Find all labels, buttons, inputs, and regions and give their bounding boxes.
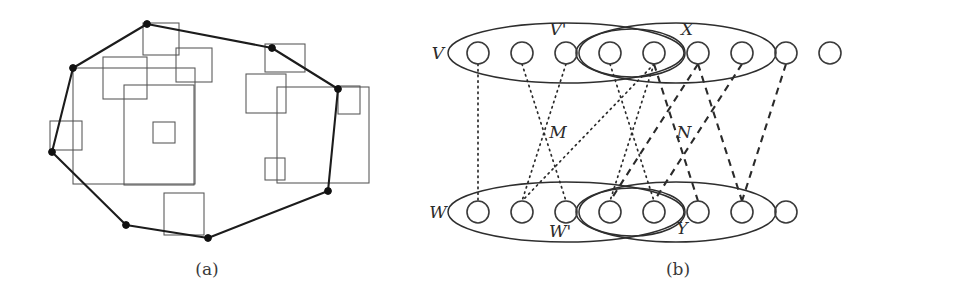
hull-vertex — [205, 235, 212, 242]
top-node[interactable] — [775, 42, 797, 64]
rectangle — [164, 193, 204, 235]
figure-svg: (a) V W V' X W' Y M N (b) — [0, 0, 963, 291]
figure-root: (a) V W V' X W' Y M N (b) — [0, 0, 963, 291]
matching-n-edge — [742, 64, 786, 201]
bottom-node[interactable] — [643, 201, 665, 223]
group-ellipse-x — [576, 23, 776, 83]
top-node[interactable] — [511, 42, 533, 64]
bottom-node-row — [467, 201, 797, 223]
rectangle-set — [50, 23, 369, 235]
group-ellipse-set — [448, 23, 776, 242]
top-node[interactable] — [819, 42, 841, 64]
panel-a: (a) — [49, 21, 369, 279]
bottom-node[interactable] — [775, 201, 797, 223]
row-label-v: V — [432, 43, 446, 63]
hull-vertex — [325, 188, 332, 195]
top-node[interactable] — [555, 42, 577, 64]
edge-set-label-m: M — [548, 122, 567, 142]
hull-vertex — [269, 45, 276, 52]
group-ellipse-inner-top — [579, 29, 685, 77]
group-ellipse-inner-bottom — [579, 188, 685, 236]
panel-a-caption: (a) — [195, 259, 218, 279]
hull-vertex — [123, 222, 130, 229]
matching-n-edges — [610, 64, 786, 201]
top-node[interactable] — [467, 42, 489, 64]
hull-vertex — [335, 86, 342, 93]
bottom-node[interactable] — [731, 201, 753, 223]
row-label-w: W — [429, 202, 448, 222]
top-node[interactable] — [643, 42, 665, 64]
bottom-node[interactable] — [511, 201, 533, 223]
group-label-x: X — [679, 19, 694, 39]
panel-b: V W V' X W' Y M N (b) — [429, 19, 841, 279]
top-node[interactable] — [731, 42, 753, 64]
rectangle — [277, 87, 369, 183]
matching-n-edge — [698, 64, 742, 201]
panel-b-caption: (b) — [666, 259, 690, 279]
rectangle — [143, 23, 179, 55]
bottom-node[interactable] — [555, 201, 577, 223]
rectangle — [176, 48, 212, 82]
group-label-w-prime: W' — [549, 221, 571, 241]
edge-set-label-n: N — [676, 122, 693, 142]
rectangle — [246, 74, 286, 113]
top-node[interactable] — [599, 42, 621, 64]
hull-vertex — [70, 65, 77, 72]
rectangle — [124, 85, 194, 185]
bottom-node[interactable] — [467, 201, 489, 223]
group-label-y: Y — [676, 218, 689, 238]
rectangle — [50, 121, 82, 150]
matching-m-edge — [522, 64, 654, 201]
top-node-row — [467, 42, 841, 64]
matching-n-edge — [654, 64, 742, 201]
group-label-v-prime: V' — [550, 19, 567, 39]
rectangle — [153, 122, 175, 143]
bottom-node[interactable] — [599, 201, 621, 223]
hull-vertex — [144, 21, 151, 28]
hull-vertex — [49, 149, 56, 156]
top-node[interactable] — [687, 42, 709, 64]
rectangle — [103, 57, 147, 99]
rectangle — [265, 158, 285, 180]
bottom-node[interactable] — [687, 201, 709, 223]
